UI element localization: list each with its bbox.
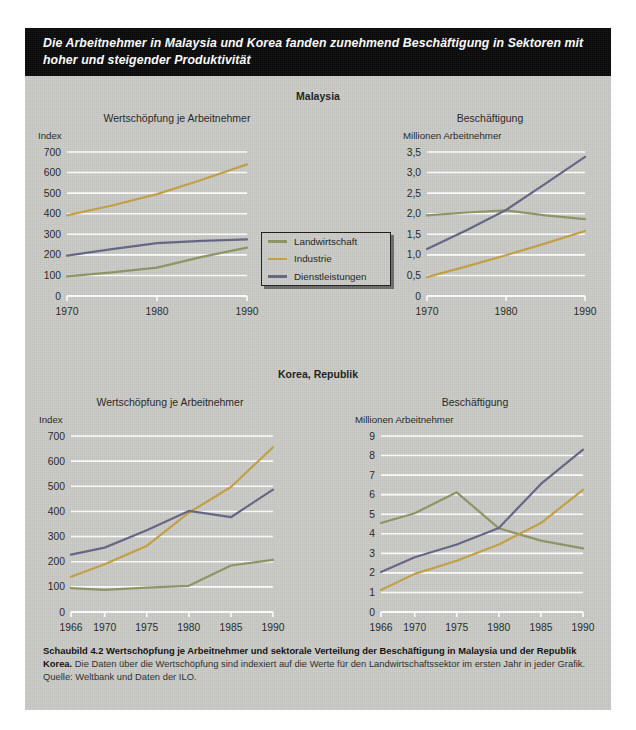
series-line-landwirtschaft <box>427 210 585 219</box>
series-line-industrie <box>381 490 583 590</box>
y-tick-label: 600 <box>44 167 61 178</box>
y-tick-label: 3,5 <box>407 147 422 158</box>
y-tick-label: 200 <box>44 249 61 260</box>
y-tick-label: 0 <box>59 607 65 618</box>
series-line-landwirtschaft <box>381 492 583 548</box>
chart-malaysia-employment: 00,51,01,52,02,53,03,5197019801990 <box>385 138 611 328</box>
section-title-korea: Korea, Republik <box>25 368 611 380</box>
legend-label-dienstleistungen: Dienstleistungen <box>294 271 366 282</box>
y-tick-label: 2,5 <box>407 188 422 199</box>
x-tick-label: 1990 <box>236 306 259 317</box>
headline-text: Die Arbeitnehmer in Malaysia und Korea f… <box>43 35 593 68</box>
x-tick-label: 1985 <box>219 622 242 633</box>
legend-item-landwirtschaft: Landwirtschaft <box>262 233 390 250</box>
chart-korea-value-added: 0100200300400500600700196619701975198019… <box>25 422 303 644</box>
chart-title-malaysia-value-added: Wertschöpfung je Arbeitnehmer <box>57 112 297 124</box>
y-tick-label: 600 <box>48 456 65 467</box>
y-tick-label: 1,0 <box>407 249 422 260</box>
x-tick-label: 1985 <box>529 622 552 633</box>
x-tick-label: 1980 <box>487 622 510 633</box>
y-tick-label: 6 <box>369 489 375 500</box>
headline-banner: Die Arbeitnehmer in Malaysia und Korea f… <box>25 28 611 76</box>
y-tick-label: 2 <box>369 567 375 578</box>
legend-item-industrie: Industrie <box>262 250 390 267</box>
y-tick-label: 300 <box>48 531 65 542</box>
figure-panel: Die Arbeitnehmer in Malaysia und Korea f… <box>25 28 611 710</box>
legend: Landwirtschaft Industrie Dienstleistunge… <box>261 232 391 286</box>
section-title-malaysia: Malaysia <box>25 90 611 102</box>
x-tick-label: 1990 <box>574 306 597 317</box>
x-tick-label: 1970 <box>403 622 426 633</box>
y-tick-label: 0 <box>55 291 61 302</box>
y-tick-label: 400 <box>44 208 61 219</box>
y-tick-label: 700 <box>44 147 61 158</box>
chart-korea-employment: 0123456789196619701975198019851990 <box>335 422 613 644</box>
x-tick-label: 1980 <box>146 306 169 317</box>
y-tick-label: 8 <box>369 450 375 461</box>
legend-swatch-dienstleistungen <box>268 275 287 278</box>
y-tick-label: 7 <box>369 470 375 481</box>
chart-title-malaysia-employment: Beschäftigung <box>370 112 610 124</box>
y-tick-label: 0,5 <box>407 270 422 281</box>
y-tick-label: 400 <box>48 506 65 517</box>
y-tick-label: 4 <box>369 528 375 539</box>
x-tick-label: 1980 <box>177 622 200 633</box>
x-tick-label: 1970 <box>93 622 116 633</box>
y-tick-label: 2,0 <box>407 208 422 219</box>
x-tick-label: 1990 <box>572 622 595 633</box>
figure-caption: Schaubild 4.2 Wertschöpfung je Arbeitneh… <box>43 644 595 684</box>
y-tick-label: 9 <box>369 431 375 442</box>
y-tick-label: 3 <box>369 548 375 559</box>
y-tick-label: 500 <box>48 481 65 492</box>
y-tick-label: 300 <box>44 229 61 240</box>
y-tick-label: 1 <box>369 587 375 598</box>
y-tick-label: 700 <box>48 431 65 442</box>
chart-title-korea-employment: Beschäftigung <box>355 396 595 408</box>
x-tick-label: 1975 <box>445 622 468 633</box>
y-tick-label: 200 <box>48 556 65 567</box>
series-line-dienstleistungen <box>427 157 585 249</box>
x-tick-label: 1966 <box>370 622 393 633</box>
x-tick-label: 1975 <box>135 622 158 633</box>
x-tick-label: 1980 <box>495 306 518 317</box>
y-tick-label: 500 <box>44 188 61 199</box>
y-tick-label: 100 <box>48 581 65 592</box>
series-line-dienstleistungen <box>71 490 273 555</box>
legend-label-industrie: Industrie <box>294 253 332 264</box>
x-tick-label: 1970 <box>416 306 439 317</box>
y-tick-label: 0 <box>415 291 421 302</box>
y-tick-label: 3,0 <box>407 167 422 178</box>
chart-title-korea-value-added: Wertschöpfung je Arbeitnehmer <box>50 396 290 408</box>
chart-malaysia-value-added: 0100200300400500600700197019801990 <box>25 138 295 328</box>
caption-rest: Die Daten über die Wertschöpfung sind in… <box>43 658 585 682</box>
x-tick-label: 1990 <box>262 622 285 633</box>
x-tick-label: 1966 <box>60 622 83 633</box>
y-tick-label: 0 <box>369 607 375 618</box>
y-tick-label: 1,5 <box>407 229 422 240</box>
legend-swatch-industrie <box>268 258 287 261</box>
y-tick-label: 5 <box>369 509 375 520</box>
legend-item-dienstleistungen: Dienstleistungen <box>262 268 390 285</box>
y-tick-label: 100 <box>44 270 61 281</box>
legend-label-landwirtschaft: Landwirtschaft <box>294 236 357 247</box>
x-tick-label: 1970 <box>56 306 79 317</box>
legend-swatch-landwirtschaft <box>268 240 287 243</box>
